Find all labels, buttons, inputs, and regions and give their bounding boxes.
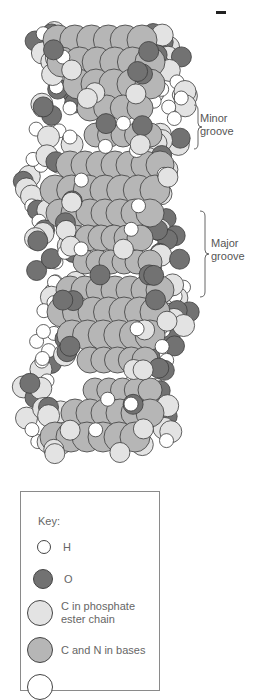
oxygen-atom bbox=[144, 265, 164, 285]
key-item-hydrogen: H bbox=[37, 540, 71, 554]
legend-key: Key: H O C in phosphate ester chain C an… bbox=[20, 491, 160, 691]
carbon-phosphate-atom bbox=[45, 444, 65, 464]
hydrogen-atom bbox=[167, 112, 181, 126]
oxygen-atom bbox=[20, 373, 40, 393]
hydrogen-atom bbox=[132, 199, 146, 213]
key-item-label: O bbox=[64, 573, 73, 586]
key-item-oxygen: O bbox=[33, 569, 73, 589]
hydrogen-atom bbox=[98, 139, 112, 153]
oxygen-atom bbox=[139, 42, 159, 62]
major-groove-label-line1: Major bbox=[211, 237, 245, 250]
oxygen-atom bbox=[44, 40, 64, 60]
carbon-phosphate-atom bbox=[60, 420, 80, 440]
oxygen-atom bbox=[96, 114, 116, 134]
oxygen-atom bbox=[60, 336, 80, 356]
oxygen-atom bbox=[90, 265, 110, 285]
oxygen-atom bbox=[53, 290, 73, 310]
carbon-phosphate-atom bbox=[133, 360, 153, 380]
hydrogen-atom-icon bbox=[37, 540, 51, 554]
key-item-carbon-nitrogen-bases: C and N in bases bbox=[27, 637, 145, 663]
hydrogen-atom bbox=[124, 397, 138, 411]
hydrogen-atom bbox=[63, 130, 77, 144]
oxygen-atom bbox=[128, 62, 148, 82]
phosphorus-atom-icon bbox=[27, 674, 53, 700]
hydrogen-atom bbox=[36, 352, 50, 366]
key-item-label: C and N in bases bbox=[61, 644, 145, 657]
hydrogen-atom bbox=[74, 242, 88, 256]
carbon-phosphate-atom bbox=[77, 88, 97, 108]
hydrogen-atom bbox=[25, 423, 39, 437]
oxygen-atom bbox=[33, 97, 53, 117]
oxygen-atom bbox=[170, 249, 190, 269]
hydrogen-atom bbox=[36, 325, 50, 339]
key-title: Key: bbox=[38, 515, 60, 527]
carbon-nitrogen-atom-icon bbox=[27, 637, 53, 663]
key-item-phosphorus bbox=[27, 674, 62, 700]
hydrogen-atom bbox=[101, 392, 115, 406]
minor-groove-label-line2: groove bbox=[200, 125, 234, 138]
carbon-phosphate-atom bbox=[62, 192, 82, 212]
key-item-label: C in phosphate ester chain bbox=[61, 600, 135, 626]
hydrogen-atom bbox=[63, 101, 77, 115]
hydrogen-atom bbox=[89, 423, 103, 437]
hydrogen-atom bbox=[124, 222, 138, 236]
carbon-phosphate-atom bbox=[158, 167, 178, 187]
carbon-phosphate-atom bbox=[113, 239, 133, 259]
carbon-phosphate-atom bbox=[157, 311, 177, 331]
hydrogen-atom bbox=[155, 340, 169, 354]
major-groove-label: Major groove bbox=[211, 237, 245, 263]
key-item-label-line1: C in phosphate bbox=[61, 600, 135, 613]
carbon-phosphate-atom-icon bbox=[27, 600, 53, 626]
oxygen-atom bbox=[146, 290, 166, 310]
oxygen-atom-icon bbox=[33, 569, 53, 589]
carbon-phosphate-atom bbox=[133, 419, 153, 439]
minor-groove-label-line1: Minor bbox=[200, 112, 234, 125]
carbon-phosphate-atom bbox=[130, 135, 150, 155]
oxygen-atom bbox=[170, 128, 190, 148]
major-groove-brace bbox=[199, 210, 211, 298]
hydrogen-atom bbox=[74, 173, 88, 187]
oxygen-atom bbox=[132, 116, 152, 136]
carbon-phosphate-atom bbox=[62, 60, 82, 80]
key-item-carbon-phosphate: C in phosphate ester chain bbox=[27, 600, 135, 626]
carbon-phosphate-atom bbox=[110, 443, 130, 463]
hydrogen-atom bbox=[130, 322, 144, 336]
hydrogen-atom bbox=[116, 116, 130, 130]
major-groove-label-line2: groove bbox=[211, 250, 245, 263]
oxygen-atom bbox=[28, 231, 48, 251]
key-item-label-line2: ester chain bbox=[61, 613, 135, 626]
key-item-label: H bbox=[63, 541, 71, 554]
minor-groove-label: Minor groove bbox=[200, 112, 234, 138]
carbon-phosphate-atom bbox=[126, 84, 146, 104]
hydrogen-atom bbox=[174, 91, 188, 105]
hydrogen-atom bbox=[160, 434, 174, 448]
